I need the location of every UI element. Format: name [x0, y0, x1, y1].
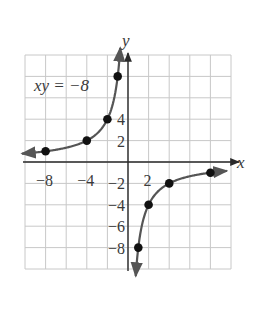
- hyperbola-chart: xy = −8 y x −8−4242−2−4−6−8: [0, 0, 262, 309]
- y-axis-label: y: [120, 31, 130, 50]
- labels: xy = −8 y x: [33, 31, 245, 172]
- curve-left-branch: [22, 48, 120, 154]
- data-point: [83, 136, 92, 145]
- data-point: [144, 201, 153, 210]
- x-tick-label: −4: [77, 172, 94, 189]
- y-tick-label: −6: [108, 218, 125, 235]
- x-tick-label: 2: [144, 172, 152, 189]
- y-tick-label: 4: [117, 111, 125, 128]
- x-axis-label: x: [236, 153, 245, 172]
- y-tick-label: −8: [108, 240, 125, 257]
- y-tick-label: −4: [108, 197, 125, 214]
- data-point: [206, 168, 215, 177]
- data-point: [113, 72, 122, 81]
- y-tick-label: 2: [117, 133, 125, 150]
- data-point: [134, 243, 143, 252]
- data-point: [41, 147, 50, 156]
- data-point: [165, 179, 174, 188]
- data-point: [103, 115, 112, 124]
- x-tick-label: −8: [36, 172, 53, 189]
- equation-label: xy = −8: [33, 76, 90, 95]
- y-tick-label: −2: [108, 175, 125, 192]
